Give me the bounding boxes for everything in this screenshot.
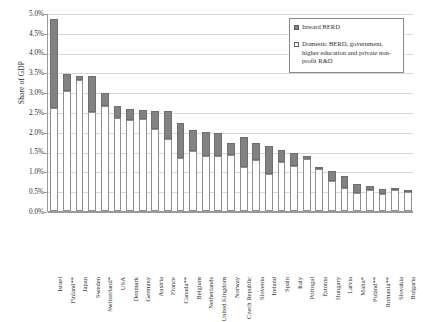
bar-segment-inward (353, 184, 361, 193)
x-axis-tick-mark (79, 210, 80, 213)
bar-segment-domestic (189, 151, 197, 211)
bar-segment-domestic (341, 188, 349, 211)
x-axis-tick-mark (293, 210, 294, 213)
y-axis-tick-label: 5.0% (4, 10, 44, 18)
bar-segment-domestic (139, 119, 147, 211)
x-axis-tick-mark (66, 210, 67, 213)
x-axis-tick-mark (142, 210, 143, 213)
x-axis-tick-label: Czech Republic (245, 277, 252, 319)
x-axis-tick-mark (104, 210, 105, 213)
bar-stack (177, 14, 185, 211)
legend-label-domestic: Domestic BERD, government, higher educat… (302, 40, 399, 65)
bar-stack (114, 14, 122, 211)
x-axis-tick-label: Bulgaria (409, 277, 416, 300)
x-axis-labels-group: IsraelFinland**JapanSwedenSwitzerland*US… (47, 213, 413, 281)
y-axis-tick-label: 2.0% (4, 129, 44, 137)
bar-segment-inward (151, 111, 159, 129)
bar-segment-domestic (50, 108, 58, 211)
bar-segment-inward (290, 153, 298, 166)
bar-segment-inward (50, 19, 58, 108)
bar-segment-inward (303, 156, 311, 159)
x-axis-tick-mark (167, 210, 168, 213)
y-axis-tick-label: 1.0% (4, 168, 44, 176)
x-axis-tick-label: Estonia (321, 277, 328, 297)
bar-stack (240, 14, 248, 211)
bar-segment-inward (252, 143, 260, 159)
bar-stack (101, 14, 109, 211)
bar-segment-inward (63, 74, 71, 92)
x-axis-tick-label: France (169, 277, 176, 295)
x-axis-tick-mark (154, 210, 155, 213)
x-axis-tick-mark (306, 210, 307, 213)
bar-segment-inward (265, 146, 273, 175)
x-axis-tick-label: Latvia (346, 277, 353, 294)
y-axis-tick-mark (44, 153, 47, 154)
bar-stack (139, 14, 147, 211)
x-axis-tick-label: Finland** (69, 277, 76, 304)
bar-segment-domestic (303, 159, 311, 211)
bar-stack (76, 14, 84, 211)
bar-segment-inward (366, 186, 374, 189)
bar-segment-domestic (252, 160, 260, 211)
legend-label-inward: Inward BERD (302, 23, 340, 31)
y-axis-tick-mark (44, 34, 47, 35)
y-axis-tick-label: 2.5% (4, 109, 44, 117)
legend-swatch-icon-inward (294, 25, 299, 30)
y-axis-tick-mark (44, 133, 47, 134)
y-axis-tick-mark (44, 192, 47, 193)
x-axis-tick-mark (280, 210, 281, 213)
x-axis-tick-label: Japan (81, 277, 88, 292)
y-axis-tick-mark (44, 14, 47, 15)
x-axis-tick-mark (230, 210, 231, 213)
bar-segment-domestic (76, 80, 84, 211)
bar-segment-domestic (278, 162, 286, 211)
x-axis-tick-mark (381, 210, 382, 213)
bar-stack (63, 14, 71, 211)
y-axis-tick-label: 3.5% (4, 69, 44, 77)
y-axis-tick-mark (44, 172, 47, 173)
bar-segment-inward (379, 189, 387, 194)
x-axis-tick-mark (217, 210, 218, 213)
bar-segment-domestic (353, 193, 361, 211)
legend: Inward BERD Domestic BERD, government, h… (289, 18, 404, 73)
bar-segment-inward (278, 150, 286, 162)
bar-stack (189, 14, 197, 211)
x-axis-tick-label: United Kingdom (220, 277, 227, 322)
x-axis-tick-mark (268, 210, 269, 213)
legend-item-inward-berd: Inward BERD (294, 23, 399, 31)
bar-stack (126, 14, 134, 211)
x-axis-tick-label: Italy (296, 277, 303, 289)
bar-stack (50, 14, 58, 211)
bar-segment-domestic (328, 181, 336, 211)
bar-stack (265, 14, 273, 211)
bar-segment-domestic (227, 155, 235, 211)
bar-segment-domestic (290, 166, 298, 211)
bar-segment-domestic (404, 192, 412, 211)
x-axis-tick-mark (91, 210, 92, 213)
bar-stack (151, 14, 159, 211)
bar-segment-domestic (114, 118, 122, 211)
x-axis-tick-label: Romania** (384, 277, 391, 307)
bar-segment-inward (315, 167, 323, 169)
bar-segment-domestic (151, 129, 159, 211)
x-axis-tick-mark (255, 210, 256, 213)
bar-stack (88, 14, 96, 211)
bar-segment-inward (214, 133, 222, 156)
x-axis-tick-mark (356, 210, 357, 213)
x-axis-tick-mark (331, 210, 332, 213)
legend-swatch-icon-domestic (294, 42, 299, 47)
x-axis-tick-mark (394, 210, 395, 213)
y-axis-tick-label: 0.5% (4, 188, 44, 196)
x-axis-tick-mark (192, 210, 193, 213)
x-axis-tick-mark (116, 210, 117, 213)
bar-segment-inward (189, 130, 197, 151)
y-axis-tick-mark (44, 113, 47, 114)
x-axis-tick-mark (243, 210, 244, 213)
x-axis-tick-mark (180, 210, 181, 213)
x-axis-tick-label: Israel (56, 277, 63, 292)
bar-segment-inward (114, 106, 122, 118)
x-axis-tick-label: Switzerland* (106, 277, 113, 312)
bar-stack (227, 14, 235, 211)
bar-segment-domestic (240, 167, 248, 211)
y-axis-tick-mark (44, 54, 47, 55)
